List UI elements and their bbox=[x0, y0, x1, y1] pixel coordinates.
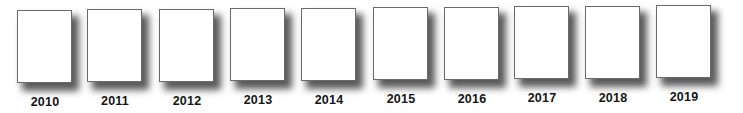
year-label: 2012 bbox=[157, 94, 217, 108]
year-page-2015 bbox=[373, 7, 428, 80]
blank-page-icon bbox=[301, 8, 356, 81]
blank-page-icon bbox=[230, 8, 285, 81]
year-page-2010 bbox=[17, 10, 72, 83]
year-page-2012 bbox=[159, 9, 214, 82]
year-page-2018 bbox=[585, 6, 640, 79]
blank-page-icon bbox=[444, 7, 499, 80]
year-page-2013 bbox=[230, 8, 285, 81]
blank-page-icon bbox=[17, 10, 72, 83]
blank-page-icon bbox=[585, 6, 640, 79]
blank-page-icon bbox=[656, 5, 711, 78]
year-page-2014 bbox=[301, 8, 356, 81]
year-label: 2016 bbox=[442, 92, 502, 106]
year-page-2017 bbox=[514, 6, 569, 79]
year-page-2019 bbox=[656, 5, 711, 78]
year-label: 2015 bbox=[371, 92, 431, 106]
blank-page-icon bbox=[514, 6, 569, 79]
year-label: 2010 bbox=[15, 95, 75, 109]
year-label: 2018 bbox=[583, 91, 643, 105]
year-label: 2019 bbox=[654, 90, 714, 104]
year-page-2011 bbox=[87, 9, 142, 82]
year-label: 2017 bbox=[512, 91, 572, 105]
blank-page-icon bbox=[373, 7, 428, 80]
blank-page-icon bbox=[87, 9, 142, 82]
blank-page-icon bbox=[159, 9, 214, 82]
year-label: 2014 bbox=[299, 93, 359, 107]
year-page-2016 bbox=[444, 7, 499, 80]
year-label: 2013 bbox=[228, 93, 288, 107]
year-label: 2011 bbox=[85, 94, 145, 108]
